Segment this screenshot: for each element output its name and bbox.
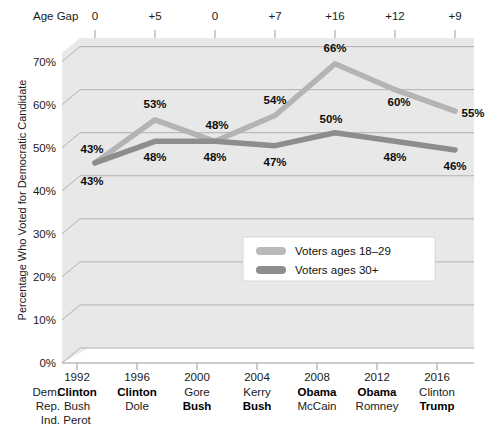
y-tick-label: 20% (33, 271, 56, 283)
x-axis-tick-marks (77, 363, 437, 370)
axis-candidate-rep: Bush (183, 400, 212, 412)
y-tick-label: 40% (33, 185, 56, 197)
y-axis-tick-labels: 0%10%20%30%40%50%60%70% (33, 56, 56, 369)
chart-container: 0%10%20%30%40%50%60%70% Percentage Who V… (0, 0, 488, 425)
legend-label: Voters ages 30+ (295, 264, 379, 276)
axis-year-label: 2004 (244, 371, 270, 383)
data-label-youth: 48% (205, 119, 228, 131)
chart-legend: Voters ages 18–29Voters ages 30+ (243, 237, 435, 281)
axis-candidate-rep: Bush (64, 400, 90, 412)
age-gap-value: +7 (268, 10, 281, 22)
data-label-older: 47% (263, 156, 286, 168)
data-label-older: 48% (143, 151, 166, 163)
data-label-youth: 53% (143, 98, 166, 110)
data-label-youth: 55% (461, 107, 484, 119)
axis-row-label: Rep. (36, 400, 60, 412)
age-gap-value: +12 (385, 10, 405, 22)
y-tick-label: 0% (39, 357, 56, 369)
axis-candidate-rep: Romney (356, 400, 399, 412)
axis-candidate-rep: Dole (125, 400, 149, 412)
age-gap-value: 0 (92, 10, 98, 22)
data-label-youth: 43% (80, 143, 103, 155)
y-tick-label: 10% (33, 314, 56, 326)
data-label-youth: 66% (323, 42, 346, 54)
legend-swatch (256, 247, 286, 255)
legend-swatch (256, 266, 286, 274)
y-axis-title: Percentage Who Voted for Democratic Cand… (16, 80, 28, 321)
axis-candidate-dem: Obama (358, 386, 398, 398)
axis-candidate-rep: Bush (243, 400, 272, 412)
y-tick-label: 30% (33, 228, 56, 240)
y-tick-label: 70% (33, 56, 56, 68)
axis-candidate-rep: Trump (419, 400, 454, 412)
data-label-older: 50% (319, 113, 342, 125)
age-gap-line-chart: 0%10%20%30%40%50%60%70% Percentage Who V… (0, 0, 488, 425)
data-label-youth: 54% (263, 94, 286, 106)
axis-year-label: 2012 (364, 371, 390, 383)
y-tick-label: 50% (33, 142, 56, 154)
plot-area (62, 38, 474, 363)
data-label-older: 46% (443, 160, 466, 172)
legend-label: Voters ages 18–29 (295, 245, 391, 257)
age-gap-value: +16 (325, 10, 345, 22)
axis-candidate-dem: Clinton (57, 386, 97, 398)
grid-line (62, 348, 474, 363)
data-label-older: 48% (203, 151, 226, 163)
axis-year-label: 2000 (184, 371, 210, 383)
age-gap-value: +5 (148, 10, 161, 22)
axis-candidate-dem: Gore (184, 386, 210, 398)
axis-candidate-dem: Clinton (419, 386, 455, 398)
axis-candidate-dem: Obama (298, 386, 338, 398)
data-label-youth: 60% (387, 96, 410, 108)
x-axis-candidate-table: Dem.Rep.Ind.1992ClintonBushPerot1996Clin… (33, 371, 455, 425)
age-gap-tick-marks (95, 30, 455, 38)
axis-candidate-rep: McCain (298, 400, 337, 412)
axis-year-label: 2016 (424, 371, 450, 383)
axis-row-label: Ind. (41, 414, 60, 425)
age-gap-values: 0+50+7+16+12+9 (92, 10, 462, 22)
age-gap-header: Age Gap (33, 10, 78, 22)
axis-candidate-dem: Clinton (117, 386, 157, 398)
axis-year-label: 2008 (304, 371, 330, 383)
data-label-older: 43% (80, 175, 103, 187)
data-label-older: 48% (383, 151, 406, 163)
axis-candidate-dem: Kerry (243, 386, 271, 398)
axis-row-label: Dem. (33, 386, 60, 398)
axis-year-label: 1996 (124, 371, 150, 383)
axis-year-label: 1992 (64, 371, 90, 383)
y-tick-label: 60% (33, 99, 56, 111)
age-gap-value: +9 (448, 10, 461, 22)
axis-candidate-ind: Perot (63, 414, 91, 425)
age-gap-value: 0 (212, 10, 218, 22)
